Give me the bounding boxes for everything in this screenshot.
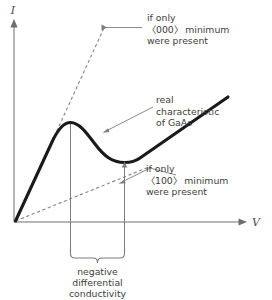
figure-container: I V	[0, 0, 272, 300]
y-axis-arrowhead-icon	[10, 19, 17, 28]
annotation-100-line3: were present	[146, 186, 207, 197]
x-axis-arrowhead-icon	[239, 218, 248, 225]
iv-characteristic-diagram: I V	[0, 0, 272, 300]
leader-arrowhead-000-icon	[102, 25, 108, 31]
y-axis-label: I	[10, 4, 16, 17]
angle-bracket-close-000-icon: 〉	[174, 24, 183, 35]
annotation-000-word: minimum	[185, 24, 229, 35]
annotation-100-word: minimum	[184, 175, 228, 186]
caption-line1: negative	[77, 266, 118, 277]
caption-line2: differential	[72, 277, 122, 288]
annotation-000-line3: were present	[147, 35, 208, 46]
annotation-real-line3: of GaAs	[156, 117, 192, 128]
annotation-real-line1: real	[156, 94, 174, 105]
annotation-000-index: 000	[156, 24, 174, 35]
annotation-real-line2: characteristic	[156, 106, 219, 117]
annotation-100-line1: if only	[146, 163, 175, 174]
annotation-100-index: 100	[155, 175, 173, 186]
caption-negative-differential-conductivity: negative differential conductivity	[69, 266, 127, 299]
x-axis-label: V	[252, 216, 261, 229]
caption-line3: conductivity	[69, 288, 127, 299]
annotation-100-minimum: if only 〈100〉minimum were present	[146, 163, 228, 197]
annotation-000-line1: if only	[147, 12, 176, 23]
leader-000-group	[102, 25, 143, 31]
leader-line-real-characteristic	[106, 107, 153, 131]
angle-bracket-open-100-icon: 〈	[146, 175, 155, 186]
annotation-100-line2: 〈100〉minimum	[146, 175, 228, 186]
ndc-brace-group	[71, 247, 125, 263]
axes-group: I V	[10, 4, 261, 229]
annotation-000-line2: 〈000〉minimum	[147, 24, 229, 35]
annotation-000-minimum: if only 〈000〉minimum were present	[147, 12, 229, 46]
angle-bracket-open-000-icon: 〈	[147, 24, 156, 35]
annotation-real-characteristic: real characteristic of GaAs	[156, 94, 219, 128]
asymptotes-group	[16, 28, 150, 221]
ndc-drop-lines-group	[71, 124, 125, 247]
brace-negative-differential-conductivity	[71, 247, 125, 263]
leader-arrowhead-real-characteristic-icon	[103, 128, 110, 133]
leader-real-characteristic-group	[103, 107, 154, 133]
angle-bracket-close-100-icon: 〉	[173, 175, 182, 186]
leader-arrowhead-100-icon	[119, 180, 126, 184]
